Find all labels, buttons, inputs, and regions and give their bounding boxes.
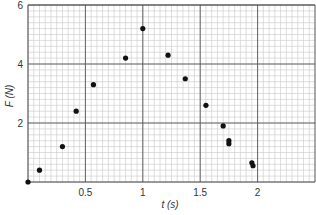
x-axis-label: t (s) [161, 199, 178, 210]
data-point [165, 53, 170, 58]
x-tick-label: 1.5 [193, 187, 207, 198]
data-point [37, 168, 42, 173]
data-point [250, 163, 255, 168]
y-tick-label: 4 [17, 59, 23, 70]
scatter-chart: 0.511.52246 t (s) F (N) [0, 0, 316, 215]
tick-labels: 0.511.52246 [17, 0, 260, 198]
data-point [25, 179, 30, 184]
x-tick-label: 2 [255, 187, 261, 198]
data-point [203, 103, 208, 108]
y-tick-label: 2 [17, 118, 23, 129]
data-point [74, 109, 79, 114]
minor-grid [28, 5, 315, 182]
y-tick-label: 6 [17, 0, 23, 11]
data-point [123, 56, 128, 61]
data-point [91, 82, 96, 87]
data-point [60, 144, 65, 149]
y-axis-label: F (N) [4, 85, 15, 108]
data-point [140, 26, 145, 31]
data-point [221, 123, 226, 128]
x-tick-label: 1 [140, 187, 146, 198]
x-tick-label: 0.5 [78, 187, 92, 198]
data-point [183, 76, 188, 81]
data-point [226, 141, 231, 146]
